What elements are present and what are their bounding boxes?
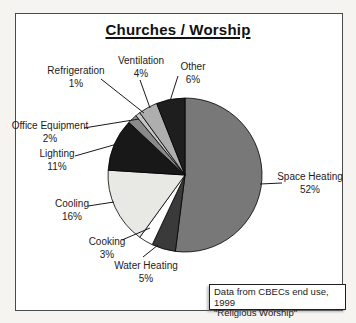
slice-label-office-equipment: Office Equipment2%: [12, 120, 89, 145]
pie-slice-space-heating: [175, 98, 262, 252]
source-note-box: Data from CBECs end use, 1999 "Religious…: [209, 284, 346, 310]
leader-line-ventilation: [140, 80, 150, 108]
slice-label-percent: 3%: [89, 249, 126, 262]
source-note-line2: "Religious Worship": [214, 308, 345, 319]
leader-line-refrigeration: [101, 79, 144, 113]
leader-line-water-heating: [143, 245, 158, 257]
slice-label-name: Cooling: [55, 198, 89, 211]
slice-label-percent: 6%: [180, 74, 205, 87]
slice-label-percent: 1%: [47, 78, 104, 91]
slice-label-percent: 2%: [12, 133, 89, 146]
slice-label-percent: 11%: [39, 161, 74, 174]
slice-label-lighting: Lighting11%: [39, 148, 74, 173]
slice-label-name: Lighting: [39, 148, 74, 161]
leader-line-other: [170, 76, 178, 101]
slice-label-name: Ventilation: [118, 55, 164, 68]
slice-label-percent: 5%: [114, 273, 178, 286]
slice-label-cooling: Cooling16%: [55, 198, 89, 223]
slice-label-name: Refrigeration: [47, 65, 104, 78]
leader-line-cooling: [88, 202, 114, 206]
slice-label-percent: 16%: [55, 211, 89, 224]
slice-label-cooking: Cooking3%: [89, 236, 126, 261]
slice-label-space-heating: Space Heating52%: [277, 171, 343, 196]
slice-label-name: Office Equipment: [12, 120, 89, 133]
slice-label-name: Other: [180, 61, 205, 74]
slice-label-name: Water Heating: [114, 260, 178, 273]
slice-label-name: Space Heating: [277, 171, 343, 184]
slice-label-refrigeration: Refrigeration1%: [47, 65, 104, 90]
slice-label-other: Other6%: [180, 61, 205, 86]
slice-label-percent: 4%: [118, 68, 164, 81]
slice-label-name: Cooking: [89, 236, 126, 249]
slice-label-ventilation: Ventilation4%: [118, 55, 164, 80]
slice-label-percent: 52%: [277, 184, 343, 197]
slice-label-water-heating: Water Heating5%: [114, 260, 178, 285]
source-note-line1: Data from CBECs end use, 1999: [214, 287, 345, 308]
